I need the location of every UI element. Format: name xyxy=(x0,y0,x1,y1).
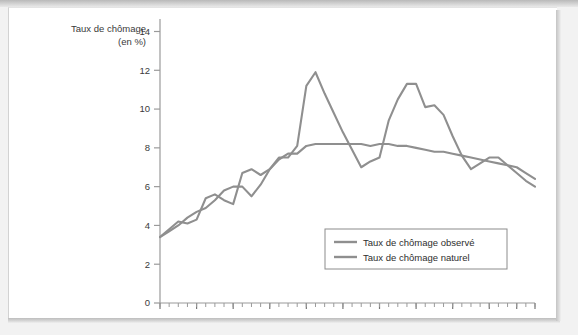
svg-text:1998: 1998 xyxy=(442,311,463,314)
svg-text:1986: 1986 xyxy=(332,311,353,314)
svg-text:1994: 1994 xyxy=(406,311,427,314)
x-axis-ticks xyxy=(160,303,535,309)
svg-text:2002: 2002 xyxy=(479,311,500,314)
legend-label-naturel: Taux de chômage naturel xyxy=(363,252,470,263)
y-axis-ticks xyxy=(154,32,160,304)
legend-box xyxy=(325,229,507,269)
svg-text:2007: 2007 xyxy=(524,311,545,314)
y-axis-tick-labels: 02468101214 xyxy=(139,26,150,309)
svg-text:8: 8 xyxy=(145,142,150,153)
page-shadow-right xyxy=(556,10,561,321)
svg-text:1974: 1974 xyxy=(223,311,244,314)
svg-text:2: 2 xyxy=(145,259,150,270)
series-line-taux-naturel xyxy=(160,72,535,237)
legend-label-observe: Taux de chômage observé xyxy=(363,237,474,248)
line-chart: Taux de chômage (en %) 02468101214 19661… xyxy=(80,14,550,314)
svg-text:1970: 1970 xyxy=(186,311,207,314)
svg-text:6: 6 xyxy=(145,181,150,192)
svg-text:1978: 1978 xyxy=(259,311,280,314)
svg-text:1990: 1990 xyxy=(369,311,390,314)
chart-legend: Taux de chômage observé Taux de chômage … xyxy=(325,229,507,269)
screenshot-root: Taux de chômage (en %) 02468101214 19661… xyxy=(0,0,578,335)
svg-text:14: 14 xyxy=(139,26,150,37)
svg-text:12: 12 xyxy=(139,65,150,76)
chart-plot-svg: 02468101214 1966197019741978198219861990… xyxy=(80,14,550,314)
top-gray-band xyxy=(0,0,578,7)
svg-text:10: 10 xyxy=(139,103,150,114)
series-line-taux-observe xyxy=(160,144,535,237)
x-axis-tick-labels: 1966197019741978198219861990199419982002… xyxy=(149,311,545,314)
svg-text:1966: 1966 xyxy=(149,311,170,314)
svg-text:1982: 1982 xyxy=(296,311,317,314)
svg-text:0: 0 xyxy=(145,297,150,308)
page-shadow-bottom xyxy=(8,318,560,323)
svg-text:4: 4 xyxy=(145,220,150,231)
